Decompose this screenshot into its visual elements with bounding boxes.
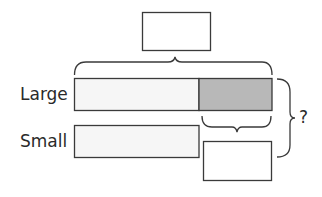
large-bar-equal-part bbox=[75, 79, 200, 111]
small-bar bbox=[75, 126, 200, 158]
row-label-large: Large bbox=[20, 86, 68, 103]
top-brace-icon bbox=[75, 57, 273, 75]
row-label-small: Small bbox=[20, 133, 67, 150]
question-mark: ? bbox=[299, 109, 308, 126]
bar-model-diagram: Large Small ? bbox=[0, 0, 322, 197]
difference-answer-box[interactable] bbox=[204, 142, 272, 181]
large-bar-extra-part bbox=[199, 79, 272, 111]
top-answer-box[interactable] bbox=[143, 13, 211, 51]
difference-brace-icon bbox=[202, 116, 271, 132]
total-brace-icon bbox=[277, 79, 295, 157]
